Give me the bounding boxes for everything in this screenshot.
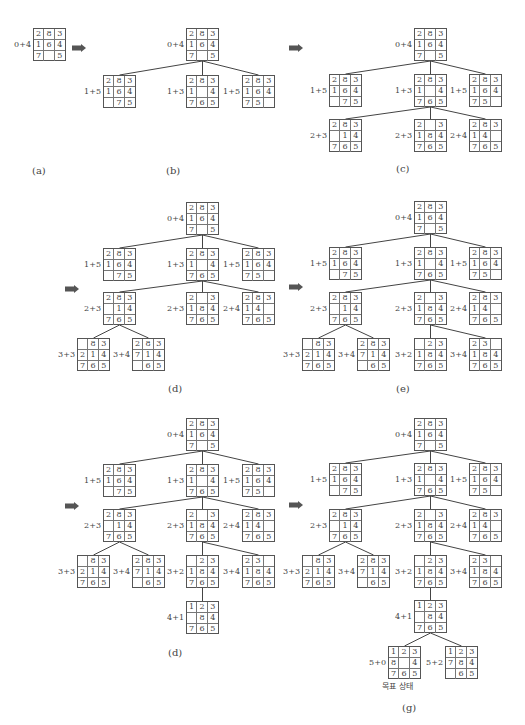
tile: 6 bbox=[340, 532, 350, 542]
tile: 1 bbox=[243, 521, 253, 532]
tile: 6 bbox=[197, 624, 207, 634]
tree-edge bbox=[431, 107, 486, 119]
tile: 7 bbox=[243, 578, 253, 588]
tile: 1 bbox=[187, 476, 197, 487]
tile: 3 bbox=[154, 556, 164, 567]
blank-tile bbox=[491, 97, 501, 107]
tile: 7 bbox=[330, 142, 340, 152]
tree-edge bbox=[346, 451, 431, 463]
tile: 2 bbox=[243, 510, 253, 521]
tile: 5 bbox=[491, 315, 501, 325]
tile: 5 bbox=[436, 486, 446, 496]
panel-label: (a) bbox=[32, 165, 46, 176]
tile: 3 bbox=[480, 556, 490, 567]
tile: 8 bbox=[340, 120, 350, 131]
tree-edge bbox=[346, 234, 431, 247]
tile: 2 bbox=[104, 76, 114, 87]
tile: 8 bbox=[253, 293, 263, 304]
node-score-label: 2+3 bbox=[382, 521, 412, 530]
tile: 4 bbox=[125, 521, 135, 532]
tile: 5 bbox=[264, 578, 274, 588]
tile: 1 bbox=[187, 521, 197, 532]
tile: 1 bbox=[415, 131, 425, 142]
tile: 8 bbox=[425, 248, 435, 259]
node-score-label: 0+4 bbox=[1, 40, 31, 49]
puzzle-board: 28316475 bbox=[186, 418, 219, 451]
tile: 7 bbox=[114, 487, 124, 497]
tile: 4 bbox=[351, 131, 361, 142]
blank-tile bbox=[104, 271, 114, 281]
tile: 8 bbox=[313, 556, 323, 567]
blank-tile bbox=[197, 476, 207, 487]
tile: 1 bbox=[415, 259, 425, 270]
node-score-label: 4+1 bbox=[154, 613, 184, 622]
tile: 8 bbox=[197, 304, 207, 315]
node-score-label: 2+3 bbox=[154, 521, 184, 530]
tile: 8 bbox=[480, 248, 490, 259]
tile: 1 bbox=[415, 213, 425, 224]
tile: 2 bbox=[330, 293, 340, 304]
node-score-label: 1+5 bbox=[210, 87, 240, 96]
tile: 1 bbox=[470, 521, 480, 532]
tile: 7 bbox=[415, 623, 425, 633]
blank-tile bbox=[264, 271, 274, 281]
tree-edge bbox=[120, 325, 149, 338]
blank-tile bbox=[425, 224, 435, 234]
blank-tile bbox=[425, 51, 435, 61]
tile: 6 bbox=[425, 430, 435, 441]
blank-tile bbox=[44, 51, 54, 61]
blank-tile bbox=[415, 612, 425, 623]
tree-edge bbox=[346, 61, 431, 74]
node-score-label: 2+4 bbox=[210, 521, 240, 530]
tile: 5 bbox=[379, 361, 389, 371]
node-score-label: 1+5 bbox=[297, 475, 327, 484]
tile: 1 bbox=[104, 476, 114, 487]
puzzle-board: 28316475 bbox=[103, 75, 136, 108]
node-score-label: 3+3 bbox=[45, 350, 75, 359]
tile: 5 bbox=[125, 98, 135, 108]
panel-label: (d) bbox=[168, 383, 182, 394]
tile: 3 bbox=[264, 465, 274, 476]
blank-tile bbox=[303, 339, 313, 350]
puzzle-board: 23184765 bbox=[469, 555, 502, 588]
tree-edge bbox=[203, 61, 259, 75]
tile: 3 bbox=[436, 248, 446, 259]
tile: 3 bbox=[154, 339, 164, 350]
blank-tile bbox=[187, 613, 197, 624]
tile: 8 bbox=[197, 29, 207, 40]
tile: 1 bbox=[104, 87, 114, 98]
tile: 1 bbox=[187, 430, 197, 441]
tile: 3 bbox=[264, 249, 274, 260]
tile: 3 bbox=[324, 339, 334, 350]
tile: 8 bbox=[389, 658, 399, 669]
tile: 5 bbox=[436, 361, 446, 371]
tree-edge bbox=[94, 325, 120, 338]
tile: 6 bbox=[88, 361, 98, 371]
tile: 7 bbox=[78, 578, 88, 588]
tile: 1 bbox=[415, 475, 425, 486]
puzzle-board: 28314765 bbox=[329, 292, 362, 325]
tile: 4 bbox=[491, 259, 501, 270]
tile: 2 bbox=[415, 464, 425, 475]
tile: 2 bbox=[78, 567, 88, 578]
blank-tile bbox=[104, 521, 114, 532]
tile: 4 bbox=[480, 131, 490, 142]
tile: 6 bbox=[425, 97, 435, 107]
tile: 8 bbox=[425, 131, 435, 142]
tile: 6 bbox=[480, 532, 490, 542]
tile: 1 bbox=[415, 304, 425, 315]
tree-edge bbox=[346, 280, 431, 292]
tile: 1 bbox=[187, 304, 197, 315]
blank-tile bbox=[399, 658, 409, 669]
tile: 1 bbox=[143, 567, 153, 578]
tile: 6 bbox=[425, 270, 435, 280]
tile: 3 bbox=[264, 76, 274, 87]
tile: 7 bbox=[470, 142, 480, 152]
tree-edge bbox=[346, 542, 374, 555]
blank-tile bbox=[197, 87, 207, 98]
puzzle-board: 28314765 bbox=[469, 292, 502, 325]
tile: 8 bbox=[197, 521, 207, 532]
tile: 6 bbox=[313, 361, 323, 371]
tile: 6 bbox=[88, 578, 98, 588]
blank-tile bbox=[425, 86, 435, 97]
